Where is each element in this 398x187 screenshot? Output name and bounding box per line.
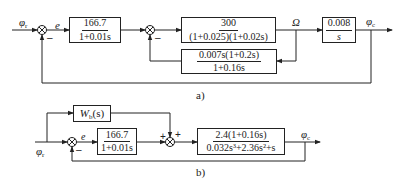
g2b-denominator: 0.032s³+2.36s²+s	[207, 142, 276, 154]
sum2-minus-sign: –	[155, 33, 161, 43]
output-label-phi-c: φc	[366, 16, 375, 29]
input-label-phi-r-b: φr	[36, 146, 44, 159]
block-g3-a: 0.008s	[322, 17, 356, 43]
g1-denominator: 1+0.01s	[79, 31, 111, 43]
block-g2-b: 2.4(1+0.16s)0.032s³+2.36s²+s	[197, 128, 285, 155]
omega-label: Ω	[292, 17, 300, 28]
sum2-plus-left-b: +	[160, 132, 166, 142]
wb-label: Wb(s)	[80, 107, 104, 121]
block-g2-a: 300(1+0.025)(1+0.02s)	[181, 17, 276, 43]
g1b-denominator: 1+0.01s	[101, 142, 133, 154]
block-wb-b: Wb(s)	[73, 105, 111, 122]
g3-denominator: s	[337, 31, 341, 43]
g1-numerator: 166.7	[82, 18, 109, 31]
sum1-minus-sign: –	[47, 33, 53, 43]
h1-numerator: 0.007s(1+0.2s)	[197, 50, 261, 63]
error-label-e: e	[55, 20, 60, 31]
block-h1-a: 0.007s(1+0.2s)1+0.16s	[181, 49, 277, 74]
sum2-plus-top-b: +	[175, 130, 181, 140]
block-g1-a: 166.71+0.01s	[69, 17, 121, 43]
h1-denominator: 1+0.16s	[213, 62, 245, 74]
caption-a: a)	[196, 90, 205, 101]
error-label-e-b: e	[81, 132, 85, 142]
output-label-phi-c-b: φc	[301, 129, 310, 142]
sum1-minus-sign-b: –	[76, 145, 82, 155]
input-label-phi-r: φr	[19, 17, 27, 30]
g2b-numerator: 2.4(1+0.16s)	[213, 130, 268, 143]
g2-numerator: 300	[219, 18, 238, 31]
caption-b: b)	[196, 167, 205, 178]
g2-denominator: (1+0.025)(1+0.02s)	[189, 31, 268, 43]
block-g1-b: 166.71+0.01s	[97, 128, 137, 155]
g1b-numerator: 166.7	[104, 130, 131, 143]
g3-numerator: 0.008	[326, 18, 353, 31]
